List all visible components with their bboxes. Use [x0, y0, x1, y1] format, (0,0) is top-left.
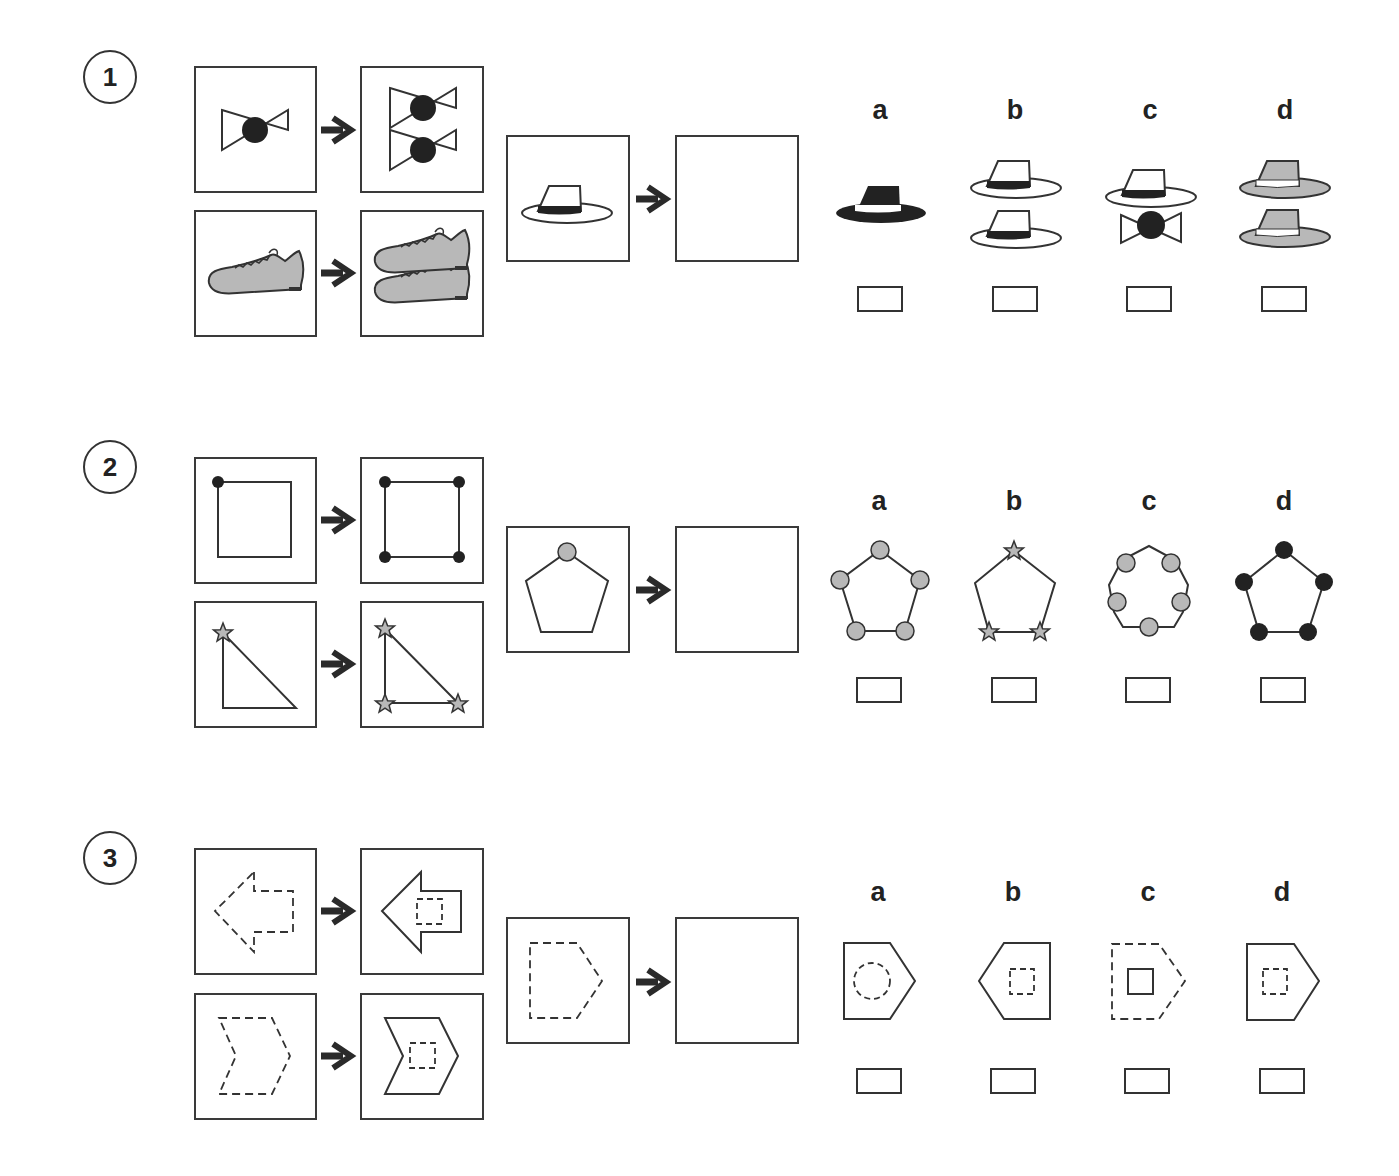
- arrow-icon: [636, 187, 666, 211]
- q2-option-c-label: c: [1129, 486, 1169, 517]
- q3-example1-to: [360, 848, 484, 975]
- arrow-icon: [321, 118, 351, 142]
- arrow-icon: [321, 652, 351, 676]
- q2-example2-to: [360, 601, 484, 728]
- q1-option-c-hat-bowtie-icon: [1106, 170, 1196, 243]
- arrow-icon: [321, 508, 351, 532]
- q2-answer-checkbox-d[interactable]: [1260, 677, 1306, 703]
- q1-prompt-from: [506, 135, 630, 262]
- q3-example1-from: [194, 848, 317, 975]
- q3-option-a-label: a: [858, 877, 898, 908]
- q1-option-c-label: c: [1130, 95, 1170, 126]
- q2-option-c-heptagon-dots-icon: [1108, 546, 1190, 636]
- question-number-label: 2: [103, 452, 117, 483]
- q3-option-b-label: b: [993, 877, 1033, 908]
- q2-answer-checkbox-a[interactable]: [856, 677, 902, 703]
- question-number-label: 3: [103, 843, 117, 874]
- q1-example2-from: [194, 210, 317, 337]
- q3-answer-checkbox-c[interactable]: [1124, 1068, 1170, 1094]
- question-number-label: 1: [103, 62, 117, 93]
- q2-option-b-pentagon-stars-icon: [975, 541, 1055, 640]
- q3-prompt-from: [506, 917, 630, 1044]
- q2-option-d-label: d: [1264, 486, 1304, 517]
- q1-option-b-label: b: [995, 95, 1035, 126]
- q3-option-c-dashed-pentagon-solid-square-icon: [1112, 944, 1185, 1019]
- q3-prompt-answer-slot: [675, 917, 799, 1044]
- q1-answer-checkbox-c[interactable]: [1126, 286, 1172, 312]
- q1-answer-checkbox-a[interactable]: [857, 286, 903, 312]
- question-number-3: 3: [83, 831, 137, 885]
- question-number-2: 2: [83, 440, 137, 494]
- q1-example1-from: [194, 66, 317, 193]
- q3-example2-from: [194, 993, 317, 1120]
- q2-prompt-from: [506, 526, 630, 653]
- q2-example1-from: [194, 457, 317, 584]
- arrow-icon: [636, 970, 666, 994]
- q2-answer-checkbox-b[interactable]: [991, 677, 1037, 703]
- arrow-icon: [321, 1044, 351, 1068]
- q1-example2-to: [360, 210, 484, 337]
- q3-answer-checkbox-a[interactable]: [856, 1068, 902, 1094]
- q2-option-d-pentagon-black-dots-icon: [1235, 541, 1333, 641]
- q2-option-a-pentagon-gray-dots-icon: [831, 541, 929, 640]
- q2-prompt-answer-slot: [675, 526, 799, 653]
- q3-option-d-label: d: [1262, 877, 1302, 908]
- arrow-icon: [636, 578, 666, 602]
- q2-example2-from: [194, 601, 317, 728]
- q1-answer-checkbox-d[interactable]: [1261, 286, 1307, 312]
- q1-option-a-black-hat-icon: [836, 186, 926, 223]
- q3-option-b-left-pentagon-dashed-square-icon: [979, 943, 1050, 1019]
- q2-answer-checkbox-c[interactable]: [1125, 677, 1171, 703]
- q1-option-b-stacked-hats-icon: [971, 161, 1061, 248]
- q3-option-c-label: c: [1128, 877, 1168, 908]
- q1-example1-to: [360, 66, 484, 193]
- question-number-1: 1: [83, 50, 137, 104]
- q3-option-a-pentagon-dashed-circle-icon: [844, 943, 915, 1019]
- arrow-icon: [321, 899, 351, 923]
- q1-option-d-gray-hats-icon: [1240, 161, 1330, 247]
- q1-answer-checkbox-b[interactable]: [992, 286, 1038, 312]
- q3-example2-to: [360, 993, 484, 1120]
- q3-option-d-pentagon-dashed-square-icon: [1247, 944, 1319, 1020]
- q1-option-a-label: a: [860, 95, 900, 126]
- q2-option-a-label: a: [859, 486, 899, 517]
- q2-example1-to: [360, 457, 484, 584]
- q1-option-d-label: d: [1265, 95, 1305, 126]
- q3-answer-checkbox-d[interactable]: [1259, 1068, 1305, 1094]
- q1-prompt-answer-slot: [675, 135, 799, 262]
- q2-option-b-label: b: [994, 486, 1034, 517]
- q3-answer-checkbox-b[interactable]: [990, 1068, 1036, 1094]
- arrow-icon: [321, 261, 351, 285]
